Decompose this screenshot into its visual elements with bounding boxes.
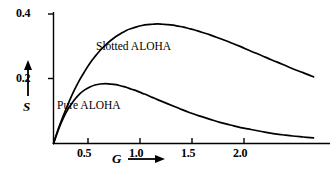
x-axis-title: G xyxy=(112,151,121,167)
x-tick-label-2.0: 2.0 xyxy=(233,146,247,161)
aloha-throughput-chart: 0.4 0.2 0.5 1.0 1.5 2.0 S G Slotted ALOH… xyxy=(0,0,335,173)
y-tick-label-0.2: 0.2 xyxy=(16,71,30,86)
series-label-slotted-aloha: Slotted ALOHA xyxy=(96,40,171,52)
x-tick-label-1.5: 1.5 xyxy=(181,146,195,161)
y-axis-title: S xyxy=(23,99,30,115)
series-line-pure-aloha xyxy=(54,84,314,144)
y-tick-label-0.4: 0.4 xyxy=(16,6,30,21)
x-tick-label-0.5: 0.5 xyxy=(77,146,91,161)
series-label-pure-aloha: Pure ALOHA xyxy=(57,99,121,111)
x-tick-label-1.0: 1.0 xyxy=(129,146,143,161)
chart-plot-area xyxy=(0,0,335,173)
series-line-slotted-aloha xyxy=(54,24,314,144)
